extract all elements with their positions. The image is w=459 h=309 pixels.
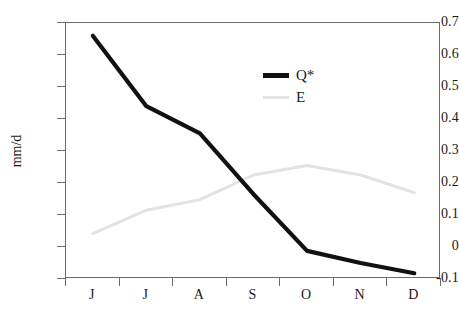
y-axis-tick [57,278,65,279]
legend-label: Q* [296,68,314,83]
y-axis-tick [57,118,65,119]
x-axis-tick-label: O [286,287,326,303]
x-axis-tick [172,278,173,286]
chart-lines [66,23,441,279]
x-axis-tick [65,278,66,286]
y-axis-tick [57,54,65,55]
series-line-e [93,165,414,233]
series-line-q-star [93,36,414,273]
x-axis-tick [333,278,334,286]
x-axis-tick [440,278,441,286]
x-axis-tick-label: S [233,287,273,303]
x-axis-tick-label: A [179,287,219,303]
chart-legend: Q*E [263,64,358,108]
legend-line-icon [263,73,289,78]
y-axis-tick [57,182,65,183]
legend-swatch-bar [263,73,289,78]
x-axis-tick [226,278,227,286]
chart-figure: 0.70.60.50.40.30.20.10-0.1 mm/d JJASOND … [0,0,459,309]
legend-entry-e: E [263,86,358,108]
y-axis-tick [57,150,65,151]
x-axis-tick-label: D [393,287,433,303]
x-axis-tick-label: N [340,287,380,303]
y-axis-tick [57,246,65,247]
x-axis-tick-label: J [72,287,112,303]
x-axis-tick-label: J [125,287,165,303]
legend-entry-q-star: Q* [263,64,358,86]
y-axis-tick [57,86,65,87]
y-axis-tick [57,214,65,215]
y-axis-tick [57,22,65,23]
x-axis-tick [279,278,280,286]
x-axis-tick [386,278,387,286]
plot-area [65,22,440,278]
legend-swatch-bar [263,96,289,99]
legend-line-icon [263,96,289,99]
x-axis-tick [119,278,120,286]
legend-label: E [296,90,305,105]
y-axis-title: mm/d [10,121,24,181]
